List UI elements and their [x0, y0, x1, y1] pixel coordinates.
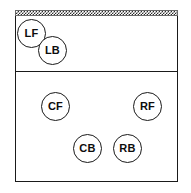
player-marker-rb[interactable]: RB: [113, 134, 142, 163]
volleyball-court-diagram: LF LB CF RF CB RB: [0, 0, 191, 193]
player-label-lb: LB: [45, 45, 60, 56]
player-label-cf: CF: [48, 101, 63, 112]
player-label-lf: LF: [25, 28, 39, 39]
attack-line: [15, 71, 178, 72]
player-marker-rf[interactable]: RF: [133, 92, 162, 121]
player-marker-cf[interactable]: CF: [41, 92, 70, 121]
player-label-rb: RB: [119, 143, 135, 154]
player-marker-lb[interactable]: LB: [38, 36, 67, 65]
net-icon: [15, 10, 178, 16]
player-label-rf: RF: [140, 101, 155, 112]
player-label-cb: CB: [79, 143, 95, 154]
player-marker-cb[interactable]: CB: [73, 134, 102, 163]
